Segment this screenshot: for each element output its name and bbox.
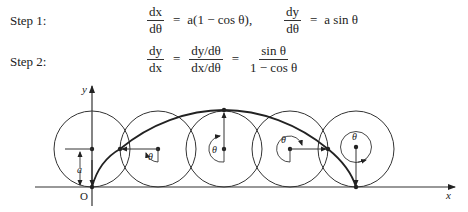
angle-label: θ: [212, 144, 217, 155]
x-axis-label: x: [445, 189, 451, 201]
y-axis-label: y: [81, 83, 87, 95]
radius-label: a: [77, 164, 82, 175]
circle-4-details: θ: [277, 134, 331, 162]
angle-label: θ: [281, 134, 286, 145]
cycloid-figure: x y O a θ θ: [0, 0, 468, 212]
angle-label: θ: [148, 151, 153, 162]
circle-1-details: a: [65, 147, 94, 189]
angle-label: θ: [352, 131, 357, 142]
circle-2-details: θ: [118, 147, 160, 162]
origin-label: O: [80, 190, 88, 202]
x-axis: x: [35, 187, 455, 201]
circle-5-details: θ: [341, 131, 372, 189]
circle-3-details: θ: [209, 108, 226, 162]
